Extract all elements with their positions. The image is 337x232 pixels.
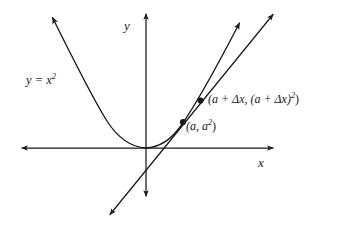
secant-line	[110, 15, 273, 215]
point-a-plus-delta-label: (a + Δx, (a + Δx)2)	[208, 93, 299, 105]
x-axis-label: x	[258, 156, 264, 169]
curve-equation-label: y = x2	[26, 74, 56, 87]
curve-equation-exponent: 2	[52, 71, 56, 81]
point-a-label-close: )	[212, 119, 216, 133]
point-a-plus-delta-label-open: (a + Δx, (a + Δx)	[208, 92, 291, 106]
point-a-label-open: (a, a	[186, 119, 208, 133]
math-figure: y x y = x2 (a, a2) (a + Δx, (a + Δx)2)	[0, 0, 337, 232]
point-a-plus-delta-marker	[197, 97, 203, 103]
y-axis-label: y	[124, 19, 130, 32]
point-a-label: (a, a2)	[186, 120, 216, 132]
curve-equation-base: y = x	[26, 73, 52, 87]
parabola-left-branch	[53, 18, 147, 149]
figure-canvas	[0, 0, 337, 232]
point-a-plus-delta-label-close: )	[295, 92, 299, 106]
